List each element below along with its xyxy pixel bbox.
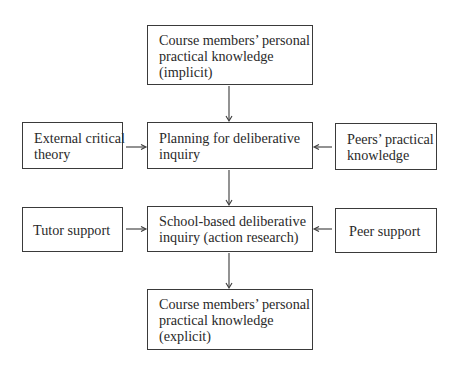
connector-arrows [0, 0, 458, 371]
